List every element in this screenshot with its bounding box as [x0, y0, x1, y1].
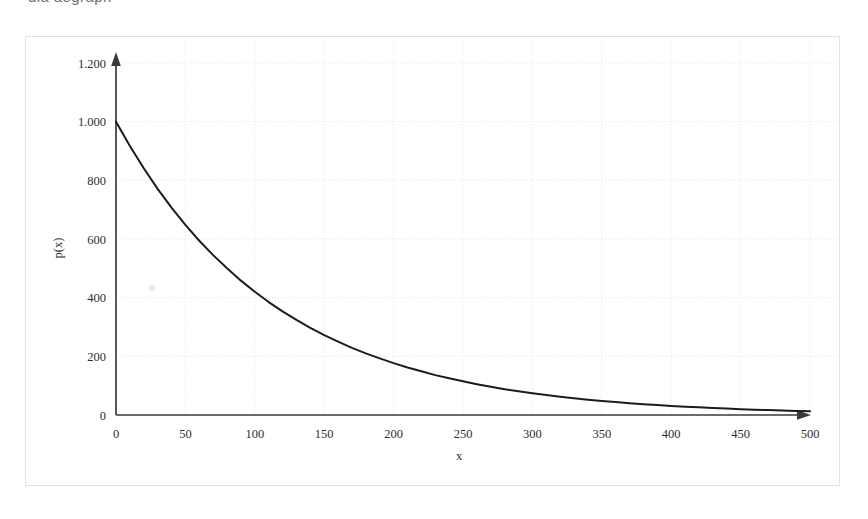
- x-axis: [116, 410, 811, 420]
- x-tick-label: 100: [245, 427, 264, 441]
- x-tick-label: 400: [662, 427, 681, 441]
- x-tick-label: 350: [592, 427, 611, 441]
- x-tick-label: 300: [523, 427, 542, 441]
- x-tick-label: 450: [731, 427, 750, 441]
- y-tick-labels: 02004006008001.0001.200: [78, 57, 106, 423]
- y-tick-label: 200: [87, 350, 106, 364]
- x-tick-label: 200: [384, 427, 403, 441]
- y-tick-label: 600: [87, 233, 106, 247]
- x-tick-label: 500: [801, 427, 820, 441]
- x-tick-label: 250: [454, 427, 473, 441]
- y-tick-label: 0: [100, 409, 106, 423]
- x-tick-label: 150: [315, 427, 334, 441]
- y-tick-label: 1.200: [78, 57, 106, 71]
- horizontal-gridlines: [116, 63, 838, 356]
- vertical-gridlines: [185, 40, 810, 415]
- x-axis-title: x: [456, 449, 463, 463]
- y-axis-title: p(x): [51, 238, 65, 259]
- y-tick-label: 400: [87, 291, 106, 305]
- y-tick-label: 800: [87, 174, 106, 188]
- y-axis: [111, 52, 121, 415]
- chart-canvas: 02004006008001.0001.200 0501001502002503…: [0, 0, 868, 519]
- x-tick-label: 0: [113, 427, 119, 441]
- x-tick-label: 50: [179, 427, 192, 441]
- x-tick-labels: 050100150200250300350400450500: [113, 427, 820, 441]
- scan-speck: [149, 285, 155, 291]
- y-tick-label: 1.000: [78, 115, 106, 129]
